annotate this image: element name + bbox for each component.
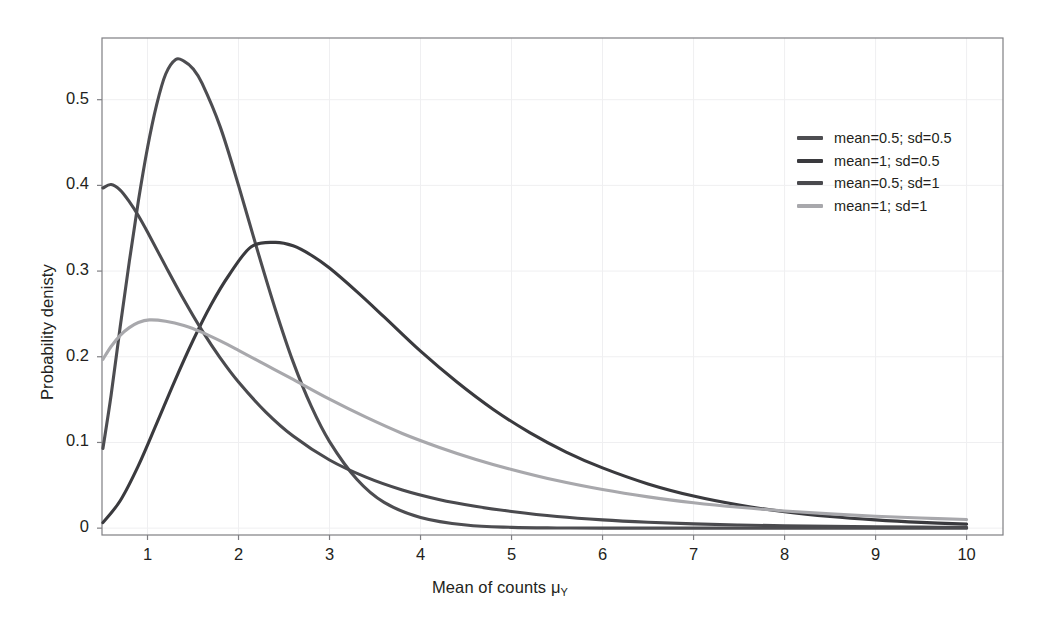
plot-canvas: [0, 0, 1039, 624]
legend-item[interactable]: mean=0.5; sd=0.5: [797, 127, 952, 149]
legend-swatch-icon: [797, 159, 823, 163]
y-tick-label: 0.5: [27, 89, 89, 108]
legend-swatch-icon: [797, 136, 823, 140]
legend-item[interactable]: mean=1; sd=0.5: [797, 150, 940, 172]
series-line-3: [103, 320, 967, 520]
legend-label: mean=1; sd=1: [834, 198, 927, 214]
gridlines: [102, 38, 1003, 535]
x-tick-label: 8: [755, 545, 815, 564]
x-tick-label: 9: [846, 545, 906, 564]
chart-figure: 00.10.20.30.40.5 12345678910 Probability…: [0, 0, 1039, 624]
x-tick-label: 4: [391, 545, 451, 564]
legend-item[interactable]: mean=1; sd=1: [797, 195, 927, 217]
x-axis-label: Mean of counts μY: [432, 578, 568, 598]
x-tick-label: 1: [118, 545, 178, 564]
x-tick-label: 5: [482, 545, 542, 564]
x-tick-label: 2: [209, 545, 269, 564]
x-axis-label-main: Mean of counts μ: [432, 578, 561, 596]
y-axis-label: Probability denisty: [38, 264, 57, 400]
x-tick-label: 3: [300, 545, 360, 564]
series-line-1: [103, 242, 967, 524]
legend-label: mean=1; sd=0.5: [834, 153, 940, 169]
legend-item[interactable]: mean=0.5; sd=1: [797, 172, 940, 194]
legend-swatch-icon: [797, 204, 823, 208]
legend-swatch-icon: [797, 181, 823, 185]
x-tick-label: 10: [937, 545, 997, 564]
legend-label: mean=0.5; sd=1: [834, 175, 940, 191]
x-tick-label: 6: [573, 545, 633, 564]
panel-border: [102, 38, 1003, 535]
x-tick-label: 7: [664, 545, 724, 564]
y-tick-label: 0.3: [27, 260, 89, 279]
y-tick-label: 0.1: [27, 431, 89, 450]
x-axis-label-subscript: Y: [561, 586, 568, 598]
y-tick-label: 0: [27, 517, 89, 536]
y-tick-label: 0.2: [27, 346, 89, 365]
y-tick-label: 0.4: [27, 174, 89, 193]
legend-label: mean=0.5; sd=0.5: [834, 130, 952, 146]
